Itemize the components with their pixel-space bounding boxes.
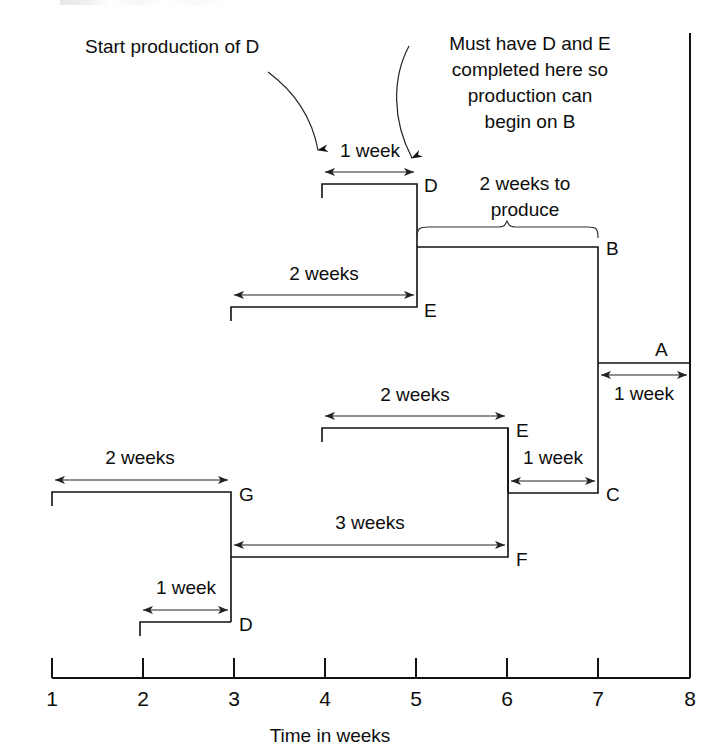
axis-tick-label-4: 4 xyxy=(319,687,331,710)
node-label-d-bottom: D xyxy=(239,614,253,635)
duration-label-d-bottom: 1 week xyxy=(156,577,217,598)
duration-label-f: 3 weeks xyxy=(335,512,405,533)
annotation-must-have-line2: completed here so xyxy=(452,59,608,80)
duration-label-e-mid: 2 weeks xyxy=(380,384,450,405)
annotation-start-production: Start production of D xyxy=(85,36,259,57)
axis-tick-label-5: 5 xyxy=(410,687,422,710)
step-outline-g xyxy=(52,492,231,622)
staircase-gantt-diagram: D B E A E G C F D 1 week 2 weeks 1 week … xyxy=(0,0,720,753)
axis-tick-label-7: 7 xyxy=(592,687,604,710)
duration-label-d-top: 1 week xyxy=(340,140,401,161)
annotation-must-have-line1: Must have D and E xyxy=(449,33,611,54)
duration-label-g: 2 weeks xyxy=(105,447,175,468)
axis-tick-label-1: 1 xyxy=(46,687,58,710)
axis-tick-label-2: 2 xyxy=(137,687,149,710)
annotation-must-have-line4: begin on B xyxy=(485,111,576,132)
annotation-must-have-line3: production can xyxy=(468,85,593,106)
node-label-a: A xyxy=(655,339,668,360)
annotation-produce-line2: produce xyxy=(491,199,560,220)
node-label-f: F xyxy=(516,549,528,570)
diagram-canvas: D B E A E G C F D 1 week 2 weeks 1 week … xyxy=(0,0,720,753)
duration-label-a: 1 week xyxy=(614,383,675,404)
step-outline-b xyxy=(417,247,598,363)
node-label-d-top: D xyxy=(424,175,438,196)
node-label-e-mid: E xyxy=(516,420,529,441)
axis-tick-label-6: 6 xyxy=(501,687,513,710)
node-label-g: G xyxy=(239,484,254,505)
callout-arrow-start-production xyxy=(268,72,318,150)
step-outline-upper xyxy=(322,184,417,247)
node-label-b: B xyxy=(606,238,619,259)
duration-label-e-upper: 2 weeks xyxy=(289,263,359,284)
x-axis xyxy=(52,658,690,678)
node-label-c: C xyxy=(606,484,620,505)
step-outline-e-mid xyxy=(322,428,508,493)
node-label-e-upper: E xyxy=(424,300,437,321)
annotation-produce-line1: 2 weeks to xyxy=(480,173,571,194)
step-outline-f xyxy=(231,428,508,557)
duration-label-c: 1 week xyxy=(523,447,584,468)
step-outline-e-upper xyxy=(231,247,417,321)
brace-b-produce xyxy=(417,221,598,238)
axis-tick-label-3: 3 xyxy=(228,687,240,710)
axis-tick-label-8: 8 xyxy=(684,687,696,710)
step-outline-d-bottom xyxy=(140,622,231,636)
axis-title: Time in weeks xyxy=(270,725,391,746)
